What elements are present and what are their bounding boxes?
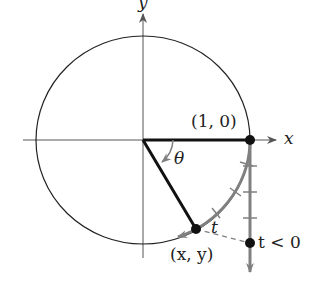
arc-t-label: t — [211, 219, 218, 236]
t-negative-label: t < 0 — [258, 234, 301, 251]
point-1-0 — [245, 135, 255, 145]
unit-circle-diagram: y x (1, 0) θ t (x, y) t < 0 — [0, 0, 314, 282]
point-1-0-label: (1, 0) — [191, 113, 237, 130]
point-t-negative — [245, 238, 255, 248]
y-axis-label: y — [138, 0, 148, 11]
correspondence-dashed — [196, 229, 250, 243]
x-axis-label: x — [284, 130, 294, 147]
theta-label: θ — [174, 150, 184, 167]
point-x-y-label: (x, y) — [170, 246, 213, 263]
arc-ticks — [212, 162, 253, 218]
point-x-y — [191, 224, 201, 234]
angle-arc — [162, 140, 173, 162]
